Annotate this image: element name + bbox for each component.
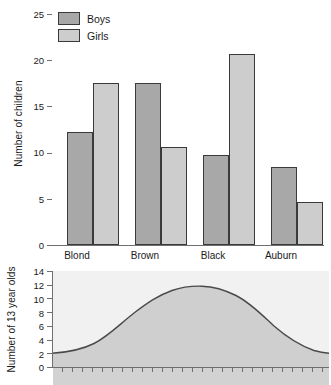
curve-x-tickmark-7 xyxy=(122,368,123,372)
curve-x-tickmark-22 xyxy=(272,368,273,372)
curve-x-tickmark-25 xyxy=(302,368,303,372)
curve-y-tick-12: 12 xyxy=(24,281,44,291)
bar-y-tick-5: 5 xyxy=(8,195,44,205)
curve-x-tickmark-19 xyxy=(242,368,243,372)
distribution-curve-figure: Number of 13 year olds 14 12 10 8 6 4 2 … xyxy=(0,266,331,385)
curve-y-tick-6: 6 xyxy=(24,322,44,332)
bar-x-label-auburn: Auburn xyxy=(251,250,311,261)
bar-y-tick-20: 20 xyxy=(8,56,44,66)
legend-item-boys: Boys xyxy=(58,11,144,26)
curve-x-tickmark-17 xyxy=(222,368,223,372)
bar-chart-plot-area xyxy=(52,14,324,245)
curve-chart-x-axis-line xyxy=(52,367,329,368)
curve-x-tickmark-4 xyxy=(92,368,93,372)
bar-black-girls xyxy=(229,54,255,245)
curve-y-tick-0: 0 xyxy=(24,363,44,373)
legend-label-girls: Girls xyxy=(87,30,109,42)
curve-x-tickmark-12 xyxy=(172,368,173,372)
curve-y-tick-2: 2 xyxy=(24,350,44,360)
curve-y-tick-10: 10 xyxy=(24,295,44,305)
figure-page: Number of children 25 20 15 10 5 0 xyxy=(0,0,331,385)
curve-x-tickmark-11 xyxy=(162,368,163,372)
curve-x-tickmark-5 xyxy=(102,368,103,372)
bar-x-label-blond: Blond xyxy=(47,250,107,261)
bar-y-tick-10: 10 xyxy=(8,148,44,158)
curve-x-tickmark-9 xyxy=(142,368,143,372)
bar-x-label-brown: Brown xyxy=(115,250,175,261)
bar-y-tick-15: 15 xyxy=(8,102,44,112)
bar-blond-girls xyxy=(93,83,119,245)
curve-x-tickmark-23 xyxy=(282,368,283,372)
curve-chart-y-axis-line xyxy=(52,271,53,368)
curve-x-tickmark-20 xyxy=(252,368,253,372)
curve-x-tickmark-21 xyxy=(262,368,263,372)
bar-chart-x-axis-line xyxy=(52,245,324,246)
legend-item-girls: Girls xyxy=(58,28,144,43)
bar-x-label-black: Black xyxy=(183,250,243,261)
curve-y-tick-8: 8 xyxy=(24,309,44,319)
curve-x-tickmark-6 xyxy=(112,368,113,372)
curve-x-tickmark-15 xyxy=(202,368,203,372)
curve-x-tickmark-16 xyxy=(212,368,213,372)
legend-label-boys: Boys xyxy=(87,13,110,25)
curve-x-tickmark-18 xyxy=(232,368,233,372)
curve-x-tickmark-8 xyxy=(132,368,133,372)
bar-brown-girls xyxy=(161,147,187,245)
curve-y-tick-14: 14 xyxy=(24,267,44,277)
curve-x-tickmark-27 xyxy=(322,368,323,372)
bar-y-tick-25: 25 xyxy=(8,10,44,20)
curve-chart-y-axis-label: Number of 13 year olds xyxy=(6,256,17,384)
bar-y-tick-0: 0 xyxy=(8,241,44,251)
bar-chart-legend: Boys Girls xyxy=(58,11,144,45)
curve-x-tickmark-10 xyxy=(152,368,153,372)
curve-x-tickmark-3 xyxy=(82,368,83,372)
curve-x-tickmark-14 xyxy=(192,368,193,372)
bar-black-boys xyxy=(203,155,229,245)
bar-auburn-boys xyxy=(271,167,297,246)
curve-chart-lower-fill xyxy=(53,368,329,385)
legend-swatch-boys-icon xyxy=(58,12,80,25)
curve-x-tickmark-26 xyxy=(312,368,313,372)
distribution-curve-path xyxy=(52,271,329,367)
curve-x-tickmark-24 xyxy=(292,368,293,372)
curve-y-tick-4: 4 xyxy=(24,336,44,346)
curve-chart-plot-area xyxy=(52,271,329,367)
curve-x-tickmark-1 xyxy=(62,368,63,372)
bar-auburn-girls xyxy=(297,202,323,245)
bar-blond-boys xyxy=(67,132,93,245)
curve-x-tickmark-2 xyxy=(72,368,73,372)
legend-swatch-girls-icon xyxy=(58,29,80,42)
curve-x-tickmark-13 xyxy=(182,368,183,372)
bar-chart-y-axis-label: Number of children xyxy=(13,69,24,179)
bar-brown-boys xyxy=(135,83,161,245)
bar-chart-figure: Number of children 25 20 15 10 5 0 xyxy=(0,0,331,266)
